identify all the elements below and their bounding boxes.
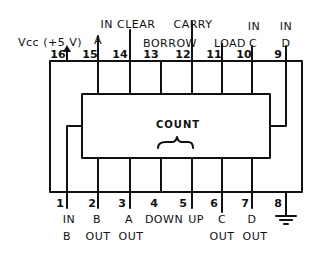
c-out-label-1: C bbox=[218, 213, 226, 226]
counter-ic-pinout-diagram: COUNT 16 15 14 13 12 11 10 9 Vcc (+5 V) … bbox=[0, 0, 321, 256]
pin-number-4: 4 bbox=[150, 197, 158, 210]
pin-number-7: 7 bbox=[241, 197, 249, 210]
in-b-label-1: IN bbox=[63, 213, 75, 226]
load-label: LOAD bbox=[214, 37, 246, 50]
vcc-label: Vcc (+5 V) bbox=[18, 36, 82, 49]
pin-number-16: 16 bbox=[50, 48, 66, 61]
pin-number-15: 15 bbox=[82, 48, 97, 61]
in-b-label-2: B bbox=[63, 230, 71, 243]
pin-number-14: 14 bbox=[112, 48, 128, 61]
b-out-label-1: B bbox=[93, 213, 101, 226]
down-label: DOWN bbox=[145, 213, 183, 226]
c-out-label-2: OUT bbox=[210, 230, 235, 243]
brace-icon bbox=[158, 137, 193, 148]
in-c-label: C bbox=[249, 37, 257, 50]
pin-number-8: 8 bbox=[274, 197, 282, 210]
pin-number-3: 3 bbox=[118, 197, 126, 210]
pin-1-lead bbox=[67, 126, 82, 208]
d-out-label-1: D bbox=[248, 213, 257, 226]
up-label: UP bbox=[188, 213, 204, 226]
borrow-label: BORROW bbox=[143, 37, 197, 50]
pin-number-5: 5 bbox=[179, 197, 187, 210]
in-a-label: A bbox=[94, 34, 102, 47]
in-d-label-top: IN bbox=[280, 20, 292, 33]
chip-label: COUNT bbox=[156, 119, 200, 130]
in-d-label: D bbox=[282, 37, 291, 50]
a-out-label-2: OUT bbox=[119, 230, 144, 243]
in-c-label-top: IN bbox=[248, 20, 260, 33]
b-out-label-2: OUT bbox=[86, 230, 111, 243]
d-out-label-2: OUT bbox=[243, 230, 268, 243]
pin-number-1: 1 bbox=[56, 197, 64, 210]
a-out-label-1: A bbox=[125, 213, 133, 226]
pin-number-2: 2 bbox=[88, 197, 96, 210]
ground-icon bbox=[276, 216, 296, 224]
in-clear-label: IN CLEAR bbox=[101, 18, 156, 31]
carry-label: CARRY bbox=[173, 18, 212, 31]
pin-number-6: 6 bbox=[210, 197, 218, 210]
